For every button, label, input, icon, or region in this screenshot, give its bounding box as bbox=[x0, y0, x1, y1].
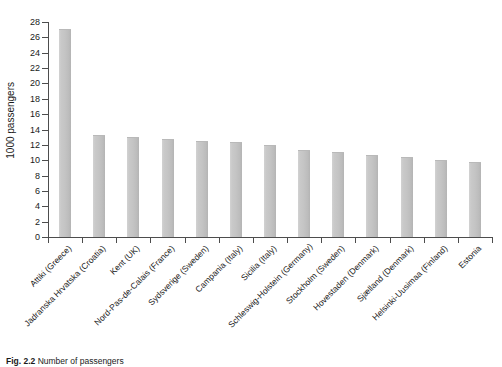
y-axis-tick-label: 16 bbox=[0, 110, 40, 119]
y-axis-tick-label: 4 bbox=[0, 202, 40, 211]
bar bbox=[196, 141, 208, 237]
bar bbox=[298, 150, 310, 237]
bar bbox=[401, 157, 413, 237]
bars-container bbox=[48, 22, 492, 237]
y-axis-tick-label: 6 bbox=[0, 187, 40, 196]
y-axis-tick-label: 20 bbox=[0, 79, 40, 88]
bar bbox=[332, 152, 344, 237]
x-axis-tick bbox=[390, 238, 391, 243]
bar bbox=[93, 135, 105, 237]
x-axis-line bbox=[48, 237, 493, 238]
x-axis-tick bbox=[355, 238, 356, 243]
bar bbox=[435, 160, 447, 237]
bar bbox=[162, 139, 174, 237]
bar bbox=[469, 162, 481, 237]
y-axis-tick-label: 8 bbox=[0, 172, 40, 181]
caption-label: Fig. 2.2 bbox=[6, 356, 35, 366]
y-axis-tick-label: 28 bbox=[0, 18, 40, 27]
x-axis-tick bbox=[185, 238, 186, 243]
x-axis-tick bbox=[492, 238, 493, 243]
x-axis-tick bbox=[321, 238, 322, 243]
x-axis-tick bbox=[287, 238, 288, 243]
y-axis-tick-label: 2 bbox=[0, 218, 40, 227]
bar bbox=[127, 137, 139, 237]
x-axis-tick bbox=[458, 238, 459, 243]
y-axis-tick-label: 22 bbox=[0, 64, 40, 73]
x-axis-tick bbox=[150, 238, 151, 243]
y-axis-tick-label: 12 bbox=[0, 141, 40, 150]
y-axis-tick-label: 18 bbox=[0, 95, 40, 104]
bar bbox=[230, 142, 242, 237]
y-axis-tick-label: 10 bbox=[0, 156, 40, 165]
figure-bar-chart: 1000 passengers 024681012141618202224262… bbox=[0, 0, 502, 367]
x-axis-tick bbox=[219, 238, 220, 243]
y-axis-tick-label: 24 bbox=[0, 49, 40, 58]
bar bbox=[264, 145, 276, 237]
figure-caption: Fig. 2.2 Number of passengers bbox=[6, 356, 498, 367]
y-axis-tick-label: 14 bbox=[0, 126, 40, 135]
bar bbox=[59, 29, 71, 237]
x-axis-tick bbox=[424, 238, 425, 243]
y-axis-tick-label: 26 bbox=[0, 33, 40, 42]
x-axis-tick bbox=[253, 238, 254, 243]
x-axis-tick bbox=[48, 238, 49, 243]
caption-text: Number of passengers bbox=[38, 356, 124, 366]
bar bbox=[366, 155, 378, 237]
x-axis-tick bbox=[116, 238, 117, 243]
x-axis-tick bbox=[82, 238, 83, 243]
y-axis-tick-label: 0 bbox=[0, 233, 40, 242]
